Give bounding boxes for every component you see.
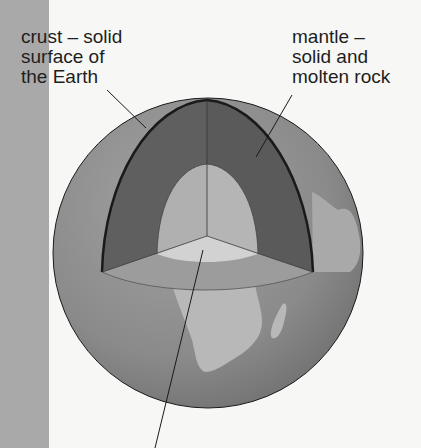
mantle-label: mantle – solid and molten rock	[292, 27, 390, 87]
crust-label: crust – solid surface of the Earth	[21, 27, 122, 87]
